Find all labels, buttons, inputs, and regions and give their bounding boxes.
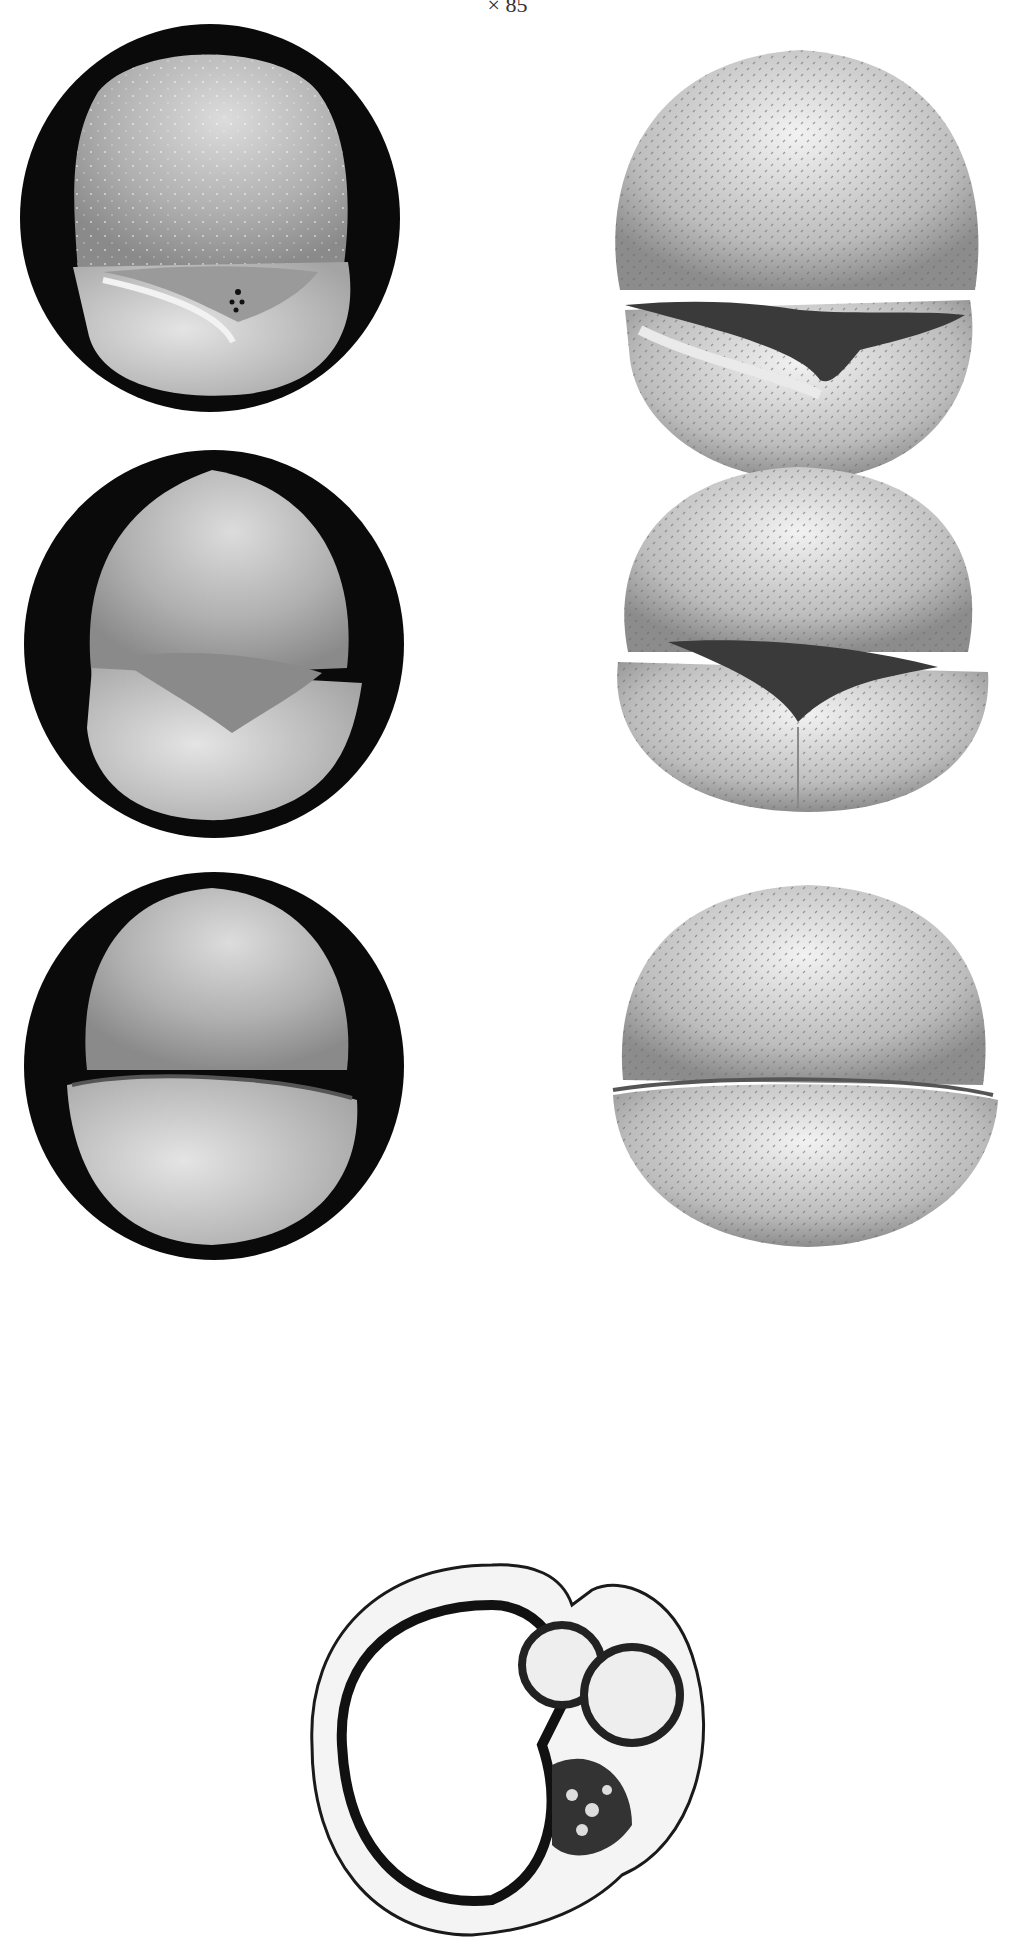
figure-drawing-2 bbox=[608, 462, 993, 822]
magnification-label: × 85 bbox=[0, 0, 1015, 18]
figure-photo-3 bbox=[22, 870, 407, 1262]
figure-drawing-1 bbox=[600, 30, 1000, 500]
figure-photo-2 bbox=[22, 448, 407, 840]
figure-photo-1 bbox=[18, 22, 403, 414]
figure-thin-section bbox=[292, 1545, 732, 1945]
figure-drawing-3 bbox=[608, 885, 1003, 1250]
